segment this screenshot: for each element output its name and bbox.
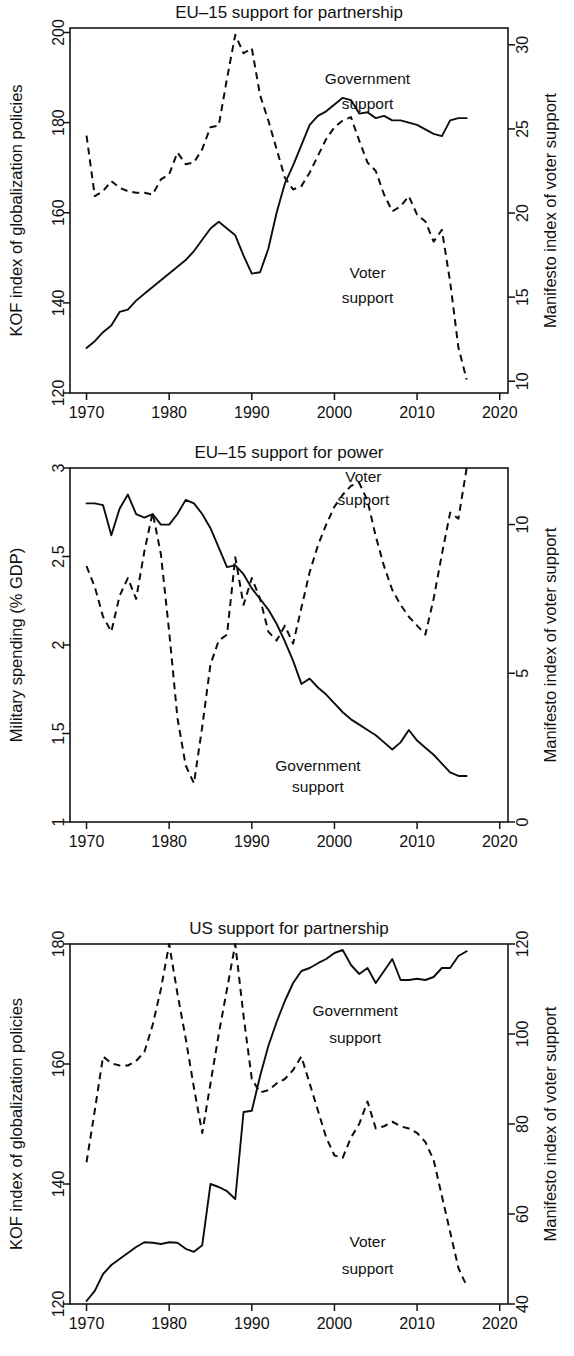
y-tick-label-right: 60 — [514, 1205, 531, 1223]
series-annotation: support — [292, 778, 344, 795]
chart-title: EU–15 support for partnership — [175, 3, 403, 22]
chart-title: EU–15 support for power — [195, 443, 384, 462]
y-tick-label-right: 40 — [514, 1295, 531, 1313]
x-tick-label: 1970 — [69, 1315, 105, 1332]
y-tick-label-right: 10 — [514, 516, 531, 534]
x-tick-label: 2020 — [482, 404, 518, 421]
x-tick-label: 2010 — [399, 1315, 435, 1332]
y-axis-label-left: Military spending (% GDP) — [7, 548, 25, 742]
y-tick-label-right: 5 — [514, 669, 531, 678]
x-tick-label: 2000 — [317, 1315, 353, 1332]
series-annotation: Government — [312, 1002, 398, 1019]
y-axis-label-right: Manifesto index of voter support — [541, 527, 559, 762]
y-tick-label-left: 160 — [50, 199, 67, 226]
x-tick-label: 2010 — [399, 833, 435, 850]
y-tick-label-left: 2.5 — [50, 545, 67, 567]
y-tick-label-right: 120 — [514, 931, 531, 958]
y-tick-label-left: 1.5 — [50, 722, 67, 744]
y-tick-label-left: 180 — [50, 931, 67, 958]
y-tick-label-left: 120 — [50, 1291, 67, 1318]
chart-svg-1: EU–15 support for power19701980199020002… — [0, 440, 574, 880]
plot-frame — [70, 28, 508, 393]
series-annotation: support — [338, 491, 390, 508]
y-tick-label-left: 200 — [50, 19, 67, 46]
multi-panel-figure: EU–15 support for partnership19701980199… — [0, 0, 574, 1356]
y-tick-label-right: 80 — [514, 1115, 531, 1133]
chart-svg-0: EU–15 support for partnership19701980199… — [0, 0, 574, 440]
series-solid-government — [87, 950, 467, 1301]
x-tick-label: 1980 — [151, 404, 187, 421]
series-annotation: support — [342, 289, 394, 306]
y-tick-label-left: 140 — [50, 1171, 67, 1198]
y-tick-label-right: 10 — [514, 372, 531, 390]
y-tick-label-left: 3 — [50, 463, 67, 472]
y-tick-label-left: 120 — [50, 380, 67, 407]
chart-title: US support for partnership — [189, 919, 388, 938]
y-tick-label-left: 1 — [50, 817, 67, 826]
x-tick-label: 2020 — [482, 1315, 518, 1332]
y-tick-label-right: 0 — [514, 817, 531, 826]
x-tick-label: 1980 — [151, 1315, 187, 1332]
y-axis-label-right: Manifesto index of voter support — [541, 1006, 559, 1241]
x-tick-label: 1970 — [69, 833, 105, 850]
y-tick-label-left: 140 — [50, 289, 67, 316]
x-tick-label: 1970 — [69, 404, 105, 421]
y-axis-label-right: Manifesto index of voter support — [541, 93, 559, 328]
y-tick-label-right: 100 — [514, 1021, 531, 1048]
series-annotation: support — [342, 1260, 394, 1277]
plot-frame — [70, 944, 508, 1304]
y-tick-label-right: 15 — [514, 288, 531, 306]
x-tick-label: 1990 — [234, 404, 270, 421]
series-solid-government — [87, 98, 467, 348]
x-tick-label: 2010 — [399, 404, 435, 421]
chart-svg-2: US support for partnership19701980199020… — [0, 880, 574, 1356]
series-annotation: Government — [325, 70, 411, 87]
x-tick-label: 1980 — [151, 833, 187, 850]
panel-eu15-partnership: EU–15 support for partnership19701980199… — [0, 0, 574, 440]
y-tick-label-right: 30 — [514, 36, 531, 54]
series-annotation: Voter — [349, 264, 385, 281]
series-annotation: support — [342, 95, 394, 112]
x-tick-label: 2020 — [482, 833, 518, 850]
x-tick-label: 2000 — [317, 404, 353, 421]
y-tick-label-left: 180 — [50, 109, 67, 136]
y-tick-label-right: 20 — [514, 204, 531, 222]
y-axis-label-left: KOF index of globalization policies — [7, 998, 25, 1250]
panel-eu15-power: EU–15 support for power19701980199020002… — [0, 440, 574, 880]
y-tick-label-left: 160 — [50, 1051, 67, 1078]
y-axis-label-left: KOF index of globalization policies — [7, 84, 25, 336]
series-solid-government — [87, 495, 467, 776]
x-tick-label: 1990 — [234, 1315, 270, 1332]
y-tick-label-left: 2 — [50, 640, 67, 649]
series-annotation: Government — [275, 757, 361, 774]
y-tick-label-right: 25 — [514, 120, 531, 138]
x-tick-label: 1990 — [234, 833, 270, 850]
series-annotation: Voter — [345, 468, 381, 485]
x-tick-label: 2000 — [317, 833, 353, 850]
series-annotation: support — [329, 1029, 381, 1046]
series-annotation: Voter — [349, 1233, 385, 1250]
panel-us-partnership: US support for partnership19701980199020… — [0, 880, 574, 1356]
series-dashed-voter — [87, 944, 467, 1286]
